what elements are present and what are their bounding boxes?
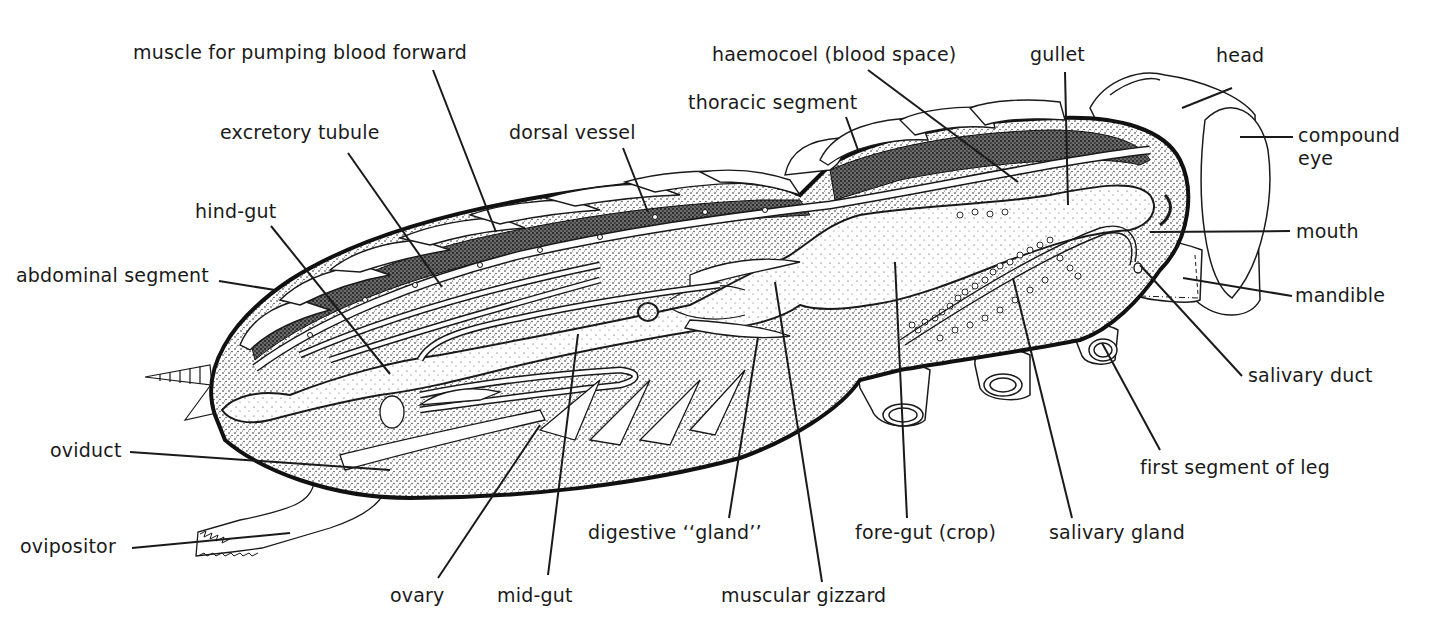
label-head: head: [1216, 44, 1264, 66]
label-abdominal-segment: abdominal segment: [16, 264, 209, 286]
label-mouth: mouth: [1296, 220, 1359, 242]
label-dorsal-vessel: dorsal vessel: [509, 121, 636, 143]
leader-muscle: [433, 70, 496, 232]
label-digestive-gland: digestive ‘‘gland’’: [588, 521, 762, 543]
label-excretory-tubule: excretory tubule: [220, 121, 380, 143]
leader-abdominal-segment: [219, 281, 275, 290]
label-mid-gut: mid-gut: [497, 584, 573, 606]
label-ovary: ovary: [390, 584, 445, 606]
label-fore-gut-crop: fore-gut (crop): [855, 521, 996, 543]
label-mandible: mandible: [1295, 284, 1385, 306]
label-gullet: gullet: [1030, 43, 1085, 65]
label-muscular-gizzard: muscular gizzard: [721, 584, 886, 606]
label-oviduct: oviduct: [50, 439, 122, 461]
label-muscle-for-pumping-blood-forward: muscle for pumping blood forward: [133, 41, 467, 63]
leader-mouth: [1150, 231, 1290, 232]
leader-first-segment-of-leg: [1102, 343, 1160, 450]
label-first-segment-of-leg: first segment of leg: [1140, 456, 1330, 478]
label-haemocoel: haemocoel (blood space): [712, 43, 956, 65]
label-hind-gut: hind-gut: [195, 200, 276, 222]
label-thoracic-segment: thoracic segment: [688, 91, 857, 113]
label-ovipositor: ovipositor: [20, 535, 116, 557]
label-salivary-duct: salivary duct: [1248, 364, 1373, 386]
label-compound-eye-line1: compound: [1298, 124, 1400, 146]
insect-anatomy-diagram: muscle for pumping blood forward excreto…: [0, 0, 1435, 626]
label-salivary-gland: salivary gland: [1049, 521, 1185, 543]
label-compound-eye-line2: eye: [1298, 147, 1333, 169]
